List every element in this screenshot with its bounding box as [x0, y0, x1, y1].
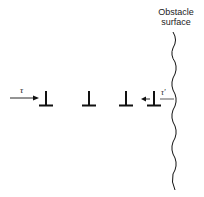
- back-stress-label: τ': [161, 88, 166, 97]
- applied-stress-label: τ: [20, 85, 23, 95]
- obstacle-label-line-1: Obstacle: [155, 7, 197, 17]
- dislocation-1: [39, 91, 53, 106]
- obstacle-label: Obstacle surface: [155, 7, 197, 27]
- obstacle-surface-line: [172, 32, 176, 190]
- obstacle-label-line-2: surface: [155, 17, 197, 27]
- pile-up-diagram: [0, 0, 204, 197]
- dislocation-3: [119, 91, 133, 106]
- dislocation-2: [82, 91, 96, 106]
- dislocation-4: [147, 91, 161, 106]
- applied-stress-arrow: [10, 96, 39, 101]
- back-stress-arrow: [141, 97, 150, 102]
